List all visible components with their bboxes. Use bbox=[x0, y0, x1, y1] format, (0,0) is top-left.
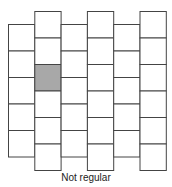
figure-caption: Not regular bbox=[0, 172, 172, 183]
shaded-tile bbox=[35, 65, 61, 92]
tile bbox=[140, 144, 166, 171]
tile bbox=[140, 118, 166, 145]
tile bbox=[114, 104, 140, 131]
tile bbox=[9, 131, 35, 158]
tile bbox=[114, 131, 140, 158]
tile bbox=[35, 144, 61, 171]
tile bbox=[87, 65, 113, 92]
tiling-diagram bbox=[0, 0, 172, 187]
tile bbox=[140, 38, 166, 65]
tile bbox=[140, 91, 166, 118]
tile bbox=[114, 25, 140, 52]
tile bbox=[61, 25, 87, 52]
tile bbox=[114, 51, 140, 78]
tile bbox=[9, 78, 35, 105]
tile bbox=[61, 51, 87, 78]
tile bbox=[9, 51, 35, 78]
tile bbox=[9, 104, 35, 131]
tile bbox=[35, 12, 61, 39]
tile bbox=[61, 131, 87, 158]
tile bbox=[114, 78, 140, 105]
tile bbox=[35, 118, 61, 145]
tile bbox=[9, 25, 35, 52]
tile bbox=[87, 118, 113, 145]
tile bbox=[61, 78, 87, 105]
tile bbox=[61, 104, 87, 131]
tile bbox=[87, 91, 113, 118]
tile bbox=[87, 12, 113, 39]
tile bbox=[87, 144, 113, 171]
tile bbox=[87, 38, 113, 65]
tile bbox=[140, 12, 166, 39]
tile bbox=[35, 91, 61, 118]
tile bbox=[35, 38, 61, 65]
tile bbox=[140, 65, 166, 92]
